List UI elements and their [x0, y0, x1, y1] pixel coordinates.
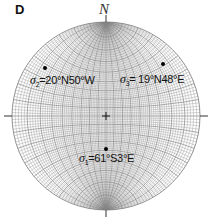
sigma2-label: σ2=20°N50°W — [30, 73, 95, 88]
sigma1-label: σ1=61°S3°E — [79, 151, 134, 166]
stereonet — [0, 0, 218, 223]
sigma3-label: σ3= 19°N48°E — [120, 72, 184, 87]
